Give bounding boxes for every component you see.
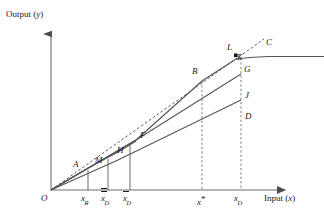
lower-curve-path [51,100,241,190]
tick-sub-x-double-bar-D: D [105,199,110,206]
overbar-single [123,191,129,192]
production-function-figure: Output (y) Input (x) O xR xD xD x* xD A … [0,0,324,219]
point-label-G: G [244,65,251,74]
x-axis-title: Input (x) [264,194,295,203]
x-axis-title-close: ) [292,193,295,203]
tick-label-x-bar-D: xD [123,194,132,205]
x-axis-title-text: Input ( [264,193,288,203]
y-axis-title: Output (y) [6,10,43,19]
overbar-lower [101,191,107,192]
point-label-A: A [73,160,79,169]
upper-curve-path [51,57,324,191]
point-label-M: M [95,156,103,165]
tick-star-glyph: * [201,194,206,204]
upper-technology-curve [51,57,324,191]
tick-sub-x-sub-R: R [85,199,89,206]
point-label-E: E [237,53,243,62]
point-label-F: F [140,131,146,140]
tick-label-x-sub-R: xR [81,194,89,205]
tick-label-x-double-bar-D: xD [101,194,110,205]
point-label-J: J [245,91,249,100]
y-axis-title-close: ) [40,9,43,19]
point-label-B: B [192,67,198,76]
tick-sub-x-sub-D: D [238,199,243,206]
tick-label-x-star: x* [197,194,206,207]
y-axis-title-text: Output ( [6,9,36,19]
lower-curve [51,100,241,190]
point-label-D: D [245,112,252,121]
point-label-L: L [227,43,232,52]
plot-canvas [0,0,324,219]
overbar-upper [101,188,107,189]
tick-sub-x-bar-D: D [127,199,132,206]
point-label-C: C [266,38,272,47]
origin-label: O [41,194,48,203]
tick-label-x-sub-D: xD [234,194,243,205]
point-label-H: H [117,146,124,155]
